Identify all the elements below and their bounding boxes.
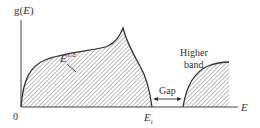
lower-band-region [21, 28, 152, 107]
x-axis-label: E [240, 101, 248, 113]
origin-label: 0 [13, 111, 18, 122]
higher-band-label-line2: band [184, 59, 203, 70]
band-edge-label: Et [143, 111, 154, 126]
gap-label: Gap [159, 85, 176, 96]
gap-arrow [153, 97, 182, 101]
density-of-states-diagram: g(E) 0 E1/2 Et Gap Higher band E [0, 0, 260, 128]
higher-band-label-line1: Higher [180, 47, 208, 58]
y-axis-label: g(E) [14, 4, 34, 17]
